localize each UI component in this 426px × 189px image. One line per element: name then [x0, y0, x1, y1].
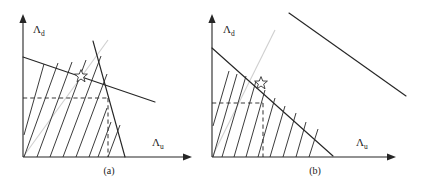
x-axis-arrowhead-b: [387, 153, 396, 160]
x-axis-label-sub-b: u: [364, 142, 368, 151]
dashed-guide-lines-a: [23, 98, 108, 157]
budget-constraint-line-b: [212, 48, 333, 156]
y-axis-label-b: Λ d: [223, 23, 235, 38]
x-axis-label-sub-a: u: [160, 142, 164, 151]
panel-caption-a: (a): [79, 165, 139, 176]
x-axis-label-text-b: Λ: [356, 136, 364, 148]
y-axis-arrowhead-b: [208, 14, 215, 23]
faint-ray-line-b: [212, 30, 275, 157]
x-axis-label-b: Λ u: [356, 136, 368, 151]
feasible-region-hatching-a: [24, 56, 120, 157]
y-axis-label-a: Λ d: [33, 23, 45, 38]
y-axis-label-text-b: Λ: [223, 23, 231, 35]
figure-root: Λ d Λ u: [0, 0, 426, 189]
shallow-constraint-line-a: [23, 57, 155, 102]
chart-panel-a: Λ d Λ u: [0, 0, 213, 189]
y-axis-arrowhead-a: [19, 14, 26, 23]
x-axis-label-text-a: Λ: [152, 136, 160, 148]
x-axis-label-a: Λ u: [152, 136, 164, 151]
y-axis-label-sub-b: d: [231, 29, 235, 38]
dashed-guide-lines-b: [212, 103, 263, 157]
y-axis-label-sub-a: d: [41, 29, 45, 38]
parallel-upper-line-b: [289, 13, 406, 96]
chart-panel-b: Λ d Λ u: [205, 0, 426, 189]
panel-caption-b: (b): [285, 165, 345, 176]
x-axis-arrowhead-a: [183, 153, 192, 160]
feasible-region-hatching-b: [213, 71, 318, 157]
axes-b: [208, 14, 396, 161]
y-axis-label-text-a: Λ: [33, 23, 41, 35]
